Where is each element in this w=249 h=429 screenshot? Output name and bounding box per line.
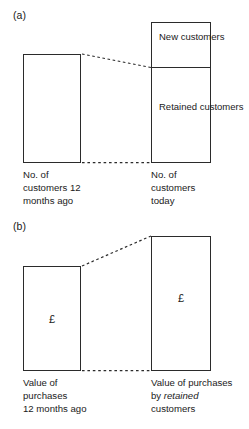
panel-b-top-connector xyxy=(82,236,151,266)
panel-b-right-axis-label-line2-italic: retained xyxy=(164,390,199,401)
panel-b-right-currency-symbol: £ xyxy=(151,292,211,304)
figure-root: (a) New customers Retained customers No.… xyxy=(0,0,249,429)
panel-b-right-axis-label: Value of purchasesby retainedcustomers xyxy=(151,376,249,416)
panel-a-left-bar xyxy=(23,54,81,163)
panel-a-left-axis-label: No. of customers 12 months ago xyxy=(23,168,143,208)
panel-b-left-currency-symbol: £ xyxy=(23,313,81,325)
panel-b-right-axis-label-line3: customers xyxy=(151,403,195,414)
panel-a-new-customers-label: New customers xyxy=(159,31,224,43)
panel-b-tag: (b) xyxy=(13,220,26,232)
panel-b-right-axis-label-line1: Value of purchases xyxy=(151,377,232,388)
panel-b-right-axis-label-line2-prefix: by xyxy=(151,390,164,401)
panel-a-tag: (a) xyxy=(13,9,26,21)
panel-a-top-connector xyxy=(82,54,151,68)
panel-a-segment-divider xyxy=(151,67,211,68)
panel-a-right-bar xyxy=(151,22,211,163)
panel-b-left-axis-label-line3: 12 months ago xyxy=(23,403,86,414)
panel-a-retained-customers-label: Retained customers xyxy=(159,101,243,113)
panel-b-left-axis-label-line1: Value of xyxy=(23,377,58,388)
panel-a-right-axis-label: No. of customers today xyxy=(151,168,246,208)
panel-b-left-axis-label-line2: purchases xyxy=(23,390,67,401)
panel-b-left-axis-label: Value ofpurchases12 months ago xyxy=(23,376,143,416)
